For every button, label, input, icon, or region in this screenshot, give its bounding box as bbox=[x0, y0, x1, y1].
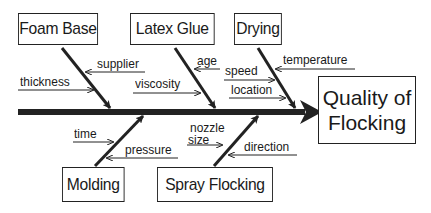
cause-thickness: thickness bbox=[20, 75, 70, 89]
cause-direction: direction bbox=[244, 140, 289, 154]
cause-pressure: pressure bbox=[125, 143, 172, 157]
effect-line1: Quality of bbox=[323, 85, 412, 110]
category-molding: Molding bbox=[62, 167, 125, 202]
category-foam-base: Foam Base bbox=[18, 13, 98, 45]
cause-supplier: supplier bbox=[97, 57, 139, 71]
cause-size: size bbox=[188, 133, 209, 147]
category-spray-flocking: Spray Flocking bbox=[157, 167, 273, 202]
cause-age: age bbox=[197, 54, 217, 68]
cause-temperature: temperature bbox=[283, 53, 347, 67]
cause-location: location bbox=[231, 83, 272, 97]
category-drying: Drying bbox=[234, 13, 282, 45]
cause-time: time bbox=[74, 127, 97, 141]
category-latex-glue: Latex Glue bbox=[130, 13, 215, 45]
effect-line2: Flocking bbox=[328, 110, 406, 135]
cause-viscosity: viscosity bbox=[135, 77, 180, 91]
effect-box: Quality of Flocking bbox=[318, 76, 416, 144]
cause-speed: speed bbox=[225, 64, 258, 78]
